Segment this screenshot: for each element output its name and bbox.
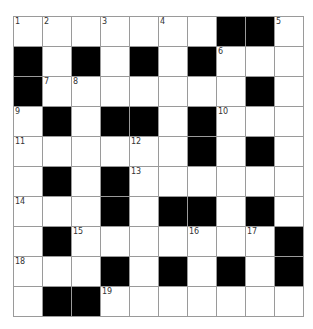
grid-cell[interactable] bbox=[188, 167, 217, 197]
grid-cell[interactable]: 19 bbox=[101, 287, 130, 317]
grid-cell[interactable]: 15 bbox=[72, 227, 101, 257]
grid-cell[interactable]: 6 bbox=[217, 47, 246, 77]
black-block bbox=[14, 47, 43, 77]
black-block bbox=[159, 197, 188, 227]
grid-cell[interactable] bbox=[14, 167, 43, 197]
grid-cell[interactable] bbox=[72, 197, 101, 227]
grid-cell[interactable]: 12 bbox=[130, 137, 159, 167]
clue-number: 14 bbox=[15, 197, 25, 206]
black-block bbox=[43, 287, 72, 317]
clue-number: 7 bbox=[44, 77, 49, 86]
grid-cell[interactable] bbox=[72, 167, 101, 197]
grid-cell[interactable] bbox=[72, 17, 101, 47]
grid-cell[interactable] bbox=[246, 47, 275, 77]
grid-cell[interactable] bbox=[188, 77, 217, 107]
grid-cell[interactable] bbox=[159, 227, 188, 257]
grid-cell[interactable] bbox=[43, 137, 72, 167]
grid-cell[interactable] bbox=[101, 47, 130, 77]
black-block bbox=[188, 47, 217, 77]
grid-cell[interactable] bbox=[275, 287, 304, 317]
grid-cell[interactable]: 5 bbox=[275, 17, 304, 47]
grid-cell[interactable] bbox=[130, 257, 159, 287]
grid-cell[interactable] bbox=[101, 137, 130, 167]
clue-number: 3 bbox=[102, 17, 107, 26]
black-block bbox=[101, 197, 130, 227]
grid-cell[interactable] bbox=[188, 287, 217, 317]
grid-cell[interactable] bbox=[159, 167, 188, 197]
grid-cell[interactable]: 4 bbox=[159, 17, 188, 47]
black-block bbox=[246, 17, 275, 47]
black-block bbox=[101, 167, 130, 197]
grid-cell[interactable]: 2 bbox=[43, 17, 72, 47]
grid-cell[interactable] bbox=[130, 227, 159, 257]
grid-cell[interactable] bbox=[159, 107, 188, 137]
grid-cell[interactable] bbox=[14, 227, 43, 257]
grid-cell[interactable]: 8 bbox=[72, 77, 101, 107]
clue-number: 1 bbox=[15, 17, 20, 26]
black-block bbox=[275, 227, 304, 257]
grid-cell[interactable] bbox=[130, 77, 159, 107]
grid-cell[interactable] bbox=[217, 287, 246, 317]
grid-cell[interactable] bbox=[275, 197, 304, 227]
grid-cell[interactable]: 7 bbox=[43, 77, 72, 107]
grid-cell[interactable] bbox=[14, 287, 43, 317]
grid-cell[interactable] bbox=[72, 107, 101, 137]
grid-cell[interactable] bbox=[246, 257, 275, 287]
grid-cell[interactable] bbox=[43, 47, 72, 77]
grid-cell[interactable] bbox=[217, 197, 246, 227]
grid-cell[interactable]: 10 bbox=[217, 107, 246, 137]
black-block bbox=[43, 167, 72, 197]
grid-cell[interactable] bbox=[188, 257, 217, 287]
grid-cell[interactable] bbox=[130, 17, 159, 47]
grid-cell[interactable]: 17 bbox=[246, 227, 275, 257]
crossword-grid: 12345678910111213141516171819 bbox=[13, 16, 304, 317]
clue-number: 8 bbox=[73, 77, 78, 86]
black-block bbox=[188, 137, 217, 167]
grid-cell[interactable] bbox=[159, 137, 188, 167]
grid-cell[interactable]: 9 bbox=[14, 107, 43, 137]
clue-number: 5 bbox=[276, 17, 281, 26]
grid-cell[interactable] bbox=[217, 137, 246, 167]
black-block bbox=[72, 287, 101, 317]
grid-cell[interactable] bbox=[217, 77, 246, 107]
grid-cell[interactable] bbox=[101, 227, 130, 257]
clue-number: 2 bbox=[44, 17, 49, 26]
grid-cell[interactable] bbox=[72, 257, 101, 287]
grid-cell[interactable] bbox=[72, 137, 101, 167]
grid-cell[interactable] bbox=[246, 167, 275, 197]
grid-cell[interactable]: 18 bbox=[14, 257, 43, 287]
grid-cell[interactable] bbox=[275, 137, 304, 167]
grid-cell[interactable] bbox=[275, 77, 304, 107]
clue-number: 18 bbox=[15, 257, 25, 266]
grid-cell[interactable] bbox=[101, 77, 130, 107]
grid-cell[interactable] bbox=[217, 227, 246, 257]
clue-number: 11 bbox=[15, 137, 25, 146]
black-block bbox=[101, 257, 130, 287]
grid-cell[interactable] bbox=[246, 287, 275, 317]
black-block bbox=[14, 77, 43, 107]
grid-cell[interactable] bbox=[43, 197, 72, 227]
black-block bbox=[159, 257, 188, 287]
black-block bbox=[72, 47, 101, 77]
grid-cell[interactable]: 16 bbox=[188, 227, 217, 257]
grid-cell[interactable] bbox=[159, 47, 188, 77]
grid-cell[interactable] bbox=[130, 287, 159, 317]
black-block bbox=[275, 257, 304, 287]
grid-cell[interactable] bbox=[275, 167, 304, 197]
grid-cell[interactable]: 11 bbox=[14, 137, 43, 167]
grid-cell[interactable] bbox=[188, 17, 217, 47]
grid-cell[interactable] bbox=[217, 167, 246, 197]
grid-cell[interactable]: 3 bbox=[101, 17, 130, 47]
black-block bbox=[188, 197, 217, 227]
grid-cell[interactable] bbox=[275, 47, 304, 77]
grid-cell[interactable] bbox=[159, 287, 188, 317]
grid-cell[interactable] bbox=[275, 107, 304, 137]
grid-cell[interactable]: 14 bbox=[14, 197, 43, 227]
black-block bbox=[130, 107, 159, 137]
grid-cell[interactable] bbox=[246, 107, 275, 137]
grid-cell[interactable]: 13 bbox=[130, 167, 159, 197]
grid-cell[interactable]: 1 bbox=[14, 17, 43, 47]
grid-cell[interactable] bbox=[43, 257, 72, 287]
grid-cell[interactable] bbox=[159, 77, 188, 107]
grid-cell[interactable] bbox=[130, 197, 159, 227]
